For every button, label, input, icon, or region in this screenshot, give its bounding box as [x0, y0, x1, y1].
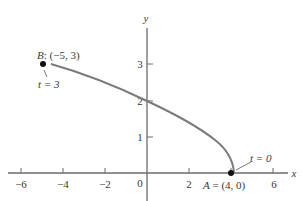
x-tick-label: −4 — [57, 178, 69, 190]
point-a-label: A = (4, 0) — [202, 179, 246, 192]
point-b — [40, 61, 46, 67]
origin-label: 0 — [137, 177, 143, 189]
x-axis-label: x — [291, 167, 297, 179]
parametric-curve — [51, 64, 234, 172]
leader-line-t3 — [44, 70, 47, 77]
parametric-plot: −6 −4 −2 0 2 6 3 2 1 x y B: (−5, 3) t = … — [0, 0, 302, 201]
y-axis-label: y — [143, 12, 149, 24]
x-tick-label: 6 — [271, 178, 277, 190]
x-tick-label: 2 — [186, 178, 192, 190]
leader-line-t0 — [236, 162, 251, 170]
t3-label: t = 3 — [38, 78, 60, 90]
point-b-label: B: (−5, 3) — [37, 49, 80, 62]
x-tick-label: −2 — [99, 178, 111, 190]
y-tick-label: 1 — [137, 131, 143, 143]
y-tick-label: 3 — [137, 58, 143, 70]
t0-label: t = 0 — [250, 152, 272, 164]
point-a — [228, 170, 234, 176]
x-tick-label: −6 — [15, 178, 27, 190]
